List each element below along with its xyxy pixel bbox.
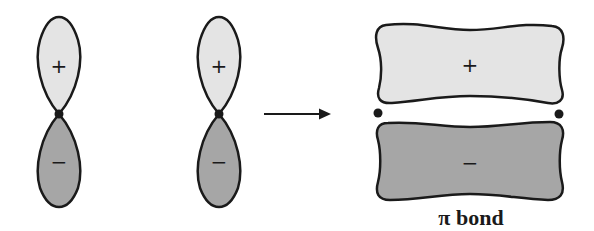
reaction-arrow-icon bbox=[264, 109, 331, 120]
pi-bond-diagram: + − + − + − π bond bbox=[0, 0, 594, 231]
pi-bond-label: π bond bbox=[438, 205, 503, 230]
p-orbital-1: + − bbox=[38, 17, 80, 207]
nucleus-dot-left bbox=[374, 109, 383, 118]
nucleus-dot bbox=[55, 110, 64, 119]
plus-sign: + bbox=[51, 54, 68, 78]
nucleus-dot-right bbox=[555, 110, 564, 119]
plus-sign: + bbox=[211, 54, 228, 78]
nucleus-dot bbox=[215, 110, 224, 119]
minus-sign: − bbox=[211, 150, 228, 174]
minus-sign: − bbox=[51, 150, 68, 174]
minus-sign: − bbox=[462, 151, 479, 175]
pi-bond: + − π bond bbox=[374, 24, 564, 230]
plus-sign: + bbox=[462, 53, 479, 77]
p-orbital-2: + − bbox=[198, 17, 240, 207]
